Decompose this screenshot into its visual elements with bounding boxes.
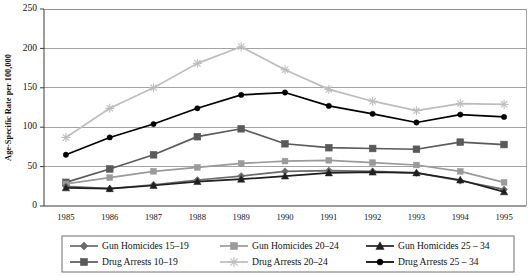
x-tick-label: 1992 — [364, 212, 381, 222]
data-point — [193, 59, 202, 68]
x-tick-label: 1988 — [189, 212, 206, 222]
data-point — [281, 65, 290, 74]
y-axis-title: Age-Specific Rate per 100,000 — [4, 54, 13, 161]
data-point — [326, 103, 331, 108]
data-point — [105, 104, 114, 113]
data-point — [151, 121, 156, 126]
x-tick-label: 1990 — [276, 212, 293, 222]
data-point — [414, 162, 420, 168]
data-point — [107, 135, 112, 140]
data-point — [107, 175, 113, 181]
data-point — [456, 99, 465, 108]
y-tick-label: 150 — [23, 82, 38, 92]
line-chart: 050100150200250Age-Specific Rate per 100… — [0, 0, 530, 277]
data-point — [194, 133, 201, 140]
x-tick-label: 1995 — [495, 212, 512, 222]
data-point — [414, 120, 419, 125]
data-point — [194, 164, 200, 170]
data-point — [195, 106, 200, 111]
x-tick-label: 1994 — [452, 212, 470, 222]
legend-label: Gun Homicides 20–24 — [252, 240, 339, 251]
data-point — [413, 146, 420, 153]
data-point — [61, 133, 70, 142]
y-tick-label: 50 — [28, 161, 38, 171]
legend-marker — [80, 258, 87, 265]
legend-label: Drug Arrests 20–24 — [252, 256, 328, 267]
data-point — [500, 100, 509, 109]
data-point — [457, 168, 463, 174]
data-point — [238, 161, 244, 167]
x-tick-label: 1993 — [408, 212, 425, 222]
data-point — [238, 125, 245, 132]
data-point — [501, 114, 506, 119]
data-point — [457, 139, 464, 146]
data-point — [282, 140, 289, 147]
data-point — [106, 166, 113, 173]
data-point — [282, 158, 288, 164]
y-tick-label: 100 — [23, 121, 38, 131]
x-tick-label: 1986 — [101, 212, 119, 222]
x-tick-label: 1989 — [233, 212, 250, 222]
data-point — [412, 106, 421, 115]
data-point — [237, 42, 246, 51]
series-2 — [62, 168, 507, 194]
data-point — [370, 160, 376, 166]
y-tick-label: 250 — [23, 3, 38, 13]
data-point — [326, 157, 332, 163]
data-point — [149, 83, 158, 92]
y-tick-label: 0 — [32, 200, 37, 210]
legend-marker — [230, 242, 237, 249]
data-point — [458, 112, 463, 117]
legend-label: Drug Arrests 10–19 — [102, 256, 178, 267]
x-tick-label: 1991 — [320, 212, 337, 222]
data-point — [151, 168, 157, 174]
data-point — [63, 152, 68, 157]
series-0 — [62, 167, 507, 193]
chart-container: 050100150200250Age-Specific Rate per 100… — [0, 0, 530, 277]
data-point — [282, 90, 287, 95]
data-point — [150, 151, 157, 158]
data-point — [325, 144, 332, 151]
legend-marker — [229, 257, 239, 267]
x-tick-label: 1985 — [57, 212, 74, 222]
legend-marker — [377, 259, 383, 265]
data-point — [501, 141, 508, 148]
y-tick-label: 200 — [23, 43, 38, 53]
legend-label: Drug Arrests 25 – 34 — [398, 256, 479, 267]
data-point — [368, 97, 377, 106]
data-point — [501, 179, 507, 185]
data-point — [324, 85, 333, 94]
data-point — [369, 145, 376, 152]
legend-label: Gun Homicides 25 – 34 — [398, 240, 490, 251]
legend-label: Gun Homicides 15–19 — [102, 240, 189, 251]
data-point — [370, 111, 375, 116]
x-tick-label: 1987 — [145, 212, 163, 222]
data-point — [239, 92, 244, 97]
